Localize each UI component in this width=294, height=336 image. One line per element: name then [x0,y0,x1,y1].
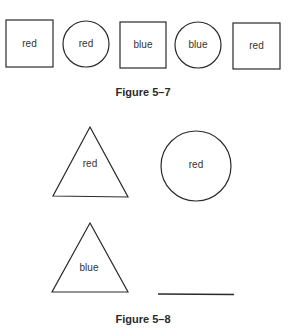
figure-5-7-caption: Figure 5–7 [115,86,170,98]
shape-label: red [83,158,97,169]
shape-label: red [249,40,263,51]
fig58-item-1-triangle: red [53,127,128,197]
shape-label: red [22,38,36,49]
shape-label: blue [189,39,208,50]
fig57-item-2-circle: red [63,21,109,67]
answer-blank-line [158,294,234,295]
shape-label: blue [134,39,153,50]
shape-label: red [79,38,93,49]
fig57-item-1-square: red [6,20,53,67]
fig57-item-3-square: blue [120,22,166,68]
fig58-item-2-circle: red [161,131,231,201]
triangle-shape [52,223,128,292]
figure-5-8: red red blue Figure 5–8 [52,127,234,325]
fig58-item-4-blank [158,294,234,295]
fig58-item-3-triangle: blue [52,223,128,292]
figure-5-8-caption: Figure 5–8 [115,313,170,325]
figure-5-7: red red blue blue red Figure 5–7 [6,20,280,98]
shape-label: blue [80,262,99,273]
fig57-item-5-square: red [233,23,280,69]
figure-canvas: red red blue blue red Figure 5–7 red red [0,0,294,336]
fig57-item-4-circle: blue [175,22,221,68]
shape-label: red [189,159,203,170]
